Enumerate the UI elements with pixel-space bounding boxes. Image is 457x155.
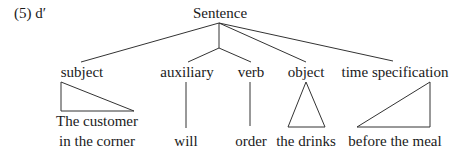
branch-subject xyxy=(81,23,219,62)
example-label: (5) d′ xyxy=(14,5,46,22)
root-branches xyxy=(81,23,393,62)
time-specification-triangle xyxy=(357,82,430,127)
leaf-subject-line1: The customer xyxy=(56,113,138,129)
branch-auxiliary xyxy=(188,48,219,62)
node-subject: subject xyxy=(61,64,104,80)
leaf-subject-line2: in the corner xyxy=(59,133,135,149)
node-time-specification: time specification xyxy=(341,64,449,80)
branch-time-specification xyxy=(219,23,393,61)
node-auxiliary: auxiliary xyxy=(160,64,214,80)
leaf-auxiliary: will xyxy=(174,133,197,149)
branch-verb xyxy=(219,48,251,62)
leaf-verb: order xyxy=(235,133,267,149)
object-triangle xyxy=(288,82,325,127)
branch-object xyxy=(219,23,306,62)
leaf-time-specification: before the meal xyxy=(348,133,441,149)
node-object: object xyxy=(288,64,325,80)
leaf-object: the drinks xyxy=(276,133,336,149)
root-node-label: Sentence xyxy=(193,5,247,21)
node-verb: verb xyxy=(238,64,265,80)
subject-triangle xyxy=(61,82,134,111)
syntax-tree-diagram: (5) d′ Sentence subject auxiliary verb o… xyxy=(0,0,457,155)
